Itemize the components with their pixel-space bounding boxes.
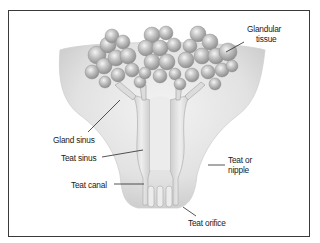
label-teat-nipple-line2: nipple xyxy=(228,165,252,175)
label-glandular-line2: tissue xyxy=(247,34,281,44)
label-glandular-tissue: Glandular tissue xyxy=(247,24,281,44)
glandular-tissue xyxy=(85,26,238,90)
label-glandular-line1: Glandular xyxy=(247,24,281,34)
label-teat-or-nipple: Teat or nipple xyxy=(228,155,252,175)
teat-canal xyxy=(148,186,172,207)
label-teat-nipple-line1: Teat or xyxy=(228,155,252,165)
label-teat-sinus: Teat sinus xyxy=(61,153,96,163)
label-teat-canal: Teat canal xyxy=(71,180,107,190)
leader-teat-orifice xyxy=(183,207,196,216)
label-gland-sinus: Gland sinus xyxy=(53,135,95,145)
label-teat-orifice: Teat orifice xyxy=(188,218,226,228)
